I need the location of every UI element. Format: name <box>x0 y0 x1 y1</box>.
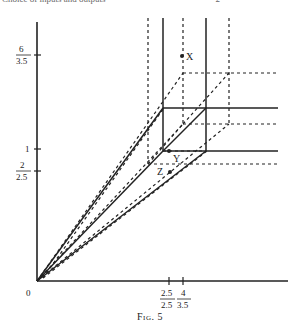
svg-text:1: 1 <box>25 144 30 154</box>
point-y <box>167 149 171 153</box>
svg-text:4: 4 <box>181 288 186 298</box>
svg-text:2.5: 2.5 <box>161 300 173 310</box>
point-z <box>168 170 172 174</box>
x-tick-label-2.5-2.5: 2.5 2.5 <box>160 288 175 310</box>
point-x-label: X <box>186 51 194 62</box>
x-tick-label-4-3.5: 4 3.5 <box>177 288 191 310</box>
y-tick-label-1: 1 <box>25 144 30 154</box>
svg-text:3.5: 3.5 <box>177 300 189 310</box>
figure-caption: Fig. 5 <box>0 311 300 322</box>
solid-lines <box>37 18 278 281</box>
origin-label: 0 <box>26 288 31 298</box>
y-tick-label-2-2.5: 2 2.5 <box>16 160 31 182</box>
svg-text:2: 2 <box>20 160 25 170</box>
y-tick-label-6-3.5: 6 3.5 <box>16 44 31 66</box>
svg-text:2.5: 2.5 <box>161 288 173 298</box>
point-z-label: Z <box>157 166 163 177</box>
point-y-label: Y <box>173 153 180 164</box>
dashed-lines <box>37 18 278 281</box>
svg-text:6: 6 <box>19 44 24 54</box>
figure-diagram: X Y Z 0 6 3.5 1 2 2.5 2.5 2.5 4 3.5 <box>0 0 300 332</box>
svg-text:2.5: 2.5 <box>16 172 28 182</box>
svg-text:3.5: 3.5 <box>16 56 28 66</box>
point-x <box>180 54 184 58</box>
